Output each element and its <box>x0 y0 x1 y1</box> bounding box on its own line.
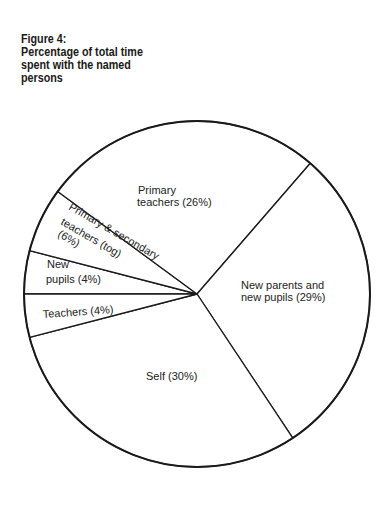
label-self: Self (30%) <box>146 370 197 382</box>
label-line: New <box>47 258 69 270</box>
label-line: Primary <box>138 184 176 196</box>
label-line: New parents and <box>241 279 324 291</box>
label-line: Self (30%) <box>146 370 197 382</box>
label-line: teachers (26%) <box>137 196 212 208</box>
label-new-parents: New parents and new pupils (29%) <box>241 279 325 303</box>
label-line: new pupils (29%) <box>241 291 325 303</box>
label-line: pupils (4%) <box>46 273 101 285</box>
pie-chart: New pupils (4%) Primary & secondary teac… <box>0 0 390 509</box>
